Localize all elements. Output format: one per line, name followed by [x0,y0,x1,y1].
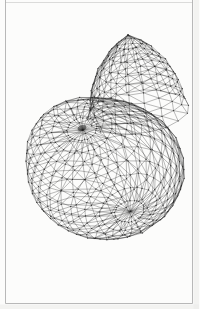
page-edge-right [194,0,200,309]
wireframe-figure [0,0,199,309]
dome-spire-mesh [88,35,189,134]
figure-canvas [0,0,199,309]
body-mesh [26,97,184,239]
page-edge-bottom [0,305,199,309]
